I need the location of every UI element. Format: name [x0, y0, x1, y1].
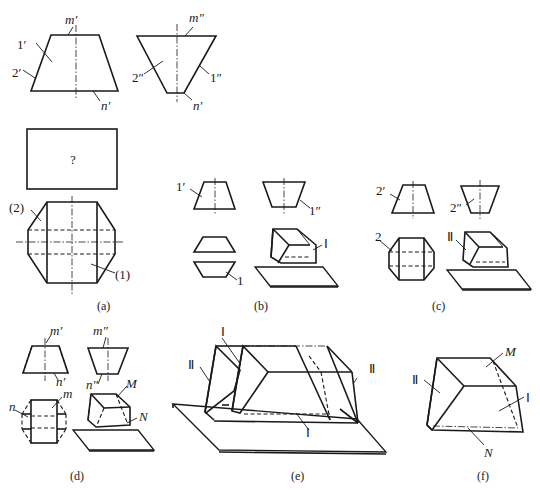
panel-b: 1′ 1″ 1 Ⅰ (b)	[176, 178, 338, 313]
caption-f: (f)	[477, 469, 489, 483]
caption-a: (a)	[97, 299, 110, 313]
f-isometric-solid: M Ⅱ Ⅰ N	[412, 344, 530, 460]
label-1-paren: (1)	[115, 267, 130, 282]
panel-a: m′ 1′ 2′ n′ m″ 2″ 1″ n′ ?	[9, 10, 222, 313]
label-roman-1: Ⅰ	[324, 236, 328, 251]
label-roman-2: Ⅱ	[412, 372, 418, 387]
caption-e: (e)	[291, 469, 304, 483]
d-front-view: m′ n′	[23, 323, 68, 389]
panel-e: Ⅰ Ⅱ Ⅱ Ⅰ (e)	[173, 324, 386, 483]
b-top-view: 1	[194, 237, 244, 288]
caption-b: (b)	[254, 299, 268, 313]
label-1: 1	[237, 273, 244, 288]
label-roman-1-bottom: Ⅰ	[306, 425, 310, 440]
caption-d: (d)	[70, 469, 84, 483]
figure-canvas: m′ 1′ 2′ n′ m″ 2″ 1″ n′ ?	[0, 0, 540, 493]
c-top-view: 2	[375, 229, 434, 280]
label-2: 2	[375, 229, 382, 244]
label-M: M	[125, 376, 138, 391]
a-top-view: (2) (1)	[9, 196, 130, 294]
label-1-double-prime: 1″	[309, 203, 321, 218]
d-top-view: n m	[9, 386, 72, 443]
label-2-double-prime: 2″	[132, 70, 144, 85]
label-question: ?	[70, 152, 76, 167]
label-roman-2-left: Ⅱ	[188, 357, 194, 372]
label-n-prime-side: n′	[193, 98, 203, 113]
label-roman-1-top: Ⅰ	[221, 324, 225, 339]
label-roman-2: Ⅱ	[447, 229, 453, 244]
label-roman-1: Ⅰ	[526, 390, 530, 405]
b-front-view: 1′	[176, 178, 235, 214]
a-front-view: m′ 1′ 2′ n′	[12, 12, 118, 113]
c-front-view: 2′	[376, 181, 434, 219]
label-m-prime: m′	[65, 12, 77, 27]
label-n: n	[9, 399, 16, 414]
label-2-double-prime: 2″	[450, 200, 462, 215]
label-m-double-prime: m″	[189, 10, 204, 25]
label-M: M	[504, 344, 517, 359]
c-isometric: Ⅱ	[447, 229, 531, 290]
b-side-view: 1″	[263, 178, 321, 218]
panel-d: m′ n′ m″ n″ n m	[9, 323, 154, 483]
label-N: N	[483, 445, 494, 460]
label-m-double-prime: m″	[93, 323, 108, 338]
a-side-view: m″ 2″ 1″ n′	[132, 10, 222, 113]
caption-c: (c)	[432, 299, 445, 313]
label-2-prime: 2′	[12, 65, 22, 80]
panel-c: 2′ 2″ 2 Ⅱ (c)	[375, 180, 531, 313]
c-side-view: 2″	[450, 180, 499, 219]
label-n-double-prime: n″	[86, 377, 99, 392]
label-2-paren: (2)	[9, 200, 24, 215]
panel-f: M Ⅱ Ⅰ N (f)	[412, 344, 530, 483]
label-2-prime: 2′	[376, 183, 386, 198]
label-m-prime: m′	[50, 323, 62, 338]
a-unknown-view: ?	[27, 129, 117, 189]
label-m: m	[63, 386, 72, 401]
label-roman-2-right: Ⅱ	[369, 361, 375, 376]
e-isometric-assembly: Ⅰ Ⅱ Ⅱ Ⅰ	[173, 324, 386, 454]
label-n-prime: n′	[101, 98, 111, 113]
label-1-prime: 1′	[176, 179, 186, 194]
d-side-view: m″ n″	[86, 323, 128, 392]
label-N: N	[138, 409, 149, 424]
label-1-double-prime: 1″	[210, 70, 222, 85]
b-isometric: Ⅰ	[255, 229, 338, 287]
label-1-prime: 1′	[17, 37, 27, 52]
